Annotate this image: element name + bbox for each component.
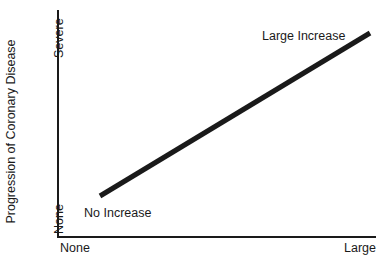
- x-axis-tick-label-none: None: [60, 241, 90, 255]
- x-axis-tick-label-large: Large: [344, 241, 376, 255]
- y-axis-title: Progression of Coronary Disease: [0, 0, 22, 263]
- y-axis-tick-label-none: None: [52, 204, 66, 234]
- chart-container: Progression of Coronary Disease Severe N…: [0, 0, 389, 263]
- y-axis-line: [57, 10, 59, 238]
- x-axis-line: [57, 236, 376, 238]
- annotation-large-increase: Large Increase: [262, 29, 345, 43]
- trend-line: [100, 33, 370, 196]
- y-axis-tick-label-severe: Severe: [52, 18, 66, 58]
- annotation-no-increase: No Increase: [84, 206, 151, 220]
